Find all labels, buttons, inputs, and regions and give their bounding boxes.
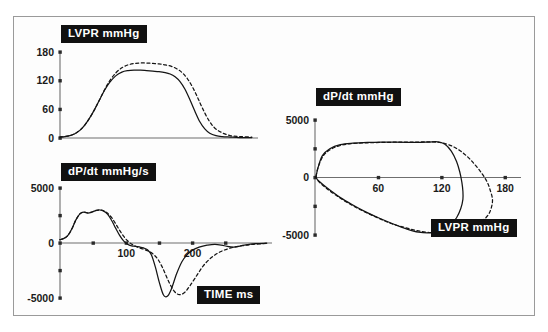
axis-label-dpdt-mmhg-right: dP/dt mmHg: [316, 88, 401, 106]
x-tick-mark: [92, 241, 95, 244]
y-tick-mark: [313, 118, 316, 121]
axis-label-dpdt-mmhg-per-s: dP/dt mmHg/s: [61, 163, 156, 181]
x-tick-mark: [191, 241, 194, 244]
y-tick-mark: [58, 50, 61, 53]
x-tick-mark: [440, 176, 443, 179]
x-tick-mark: [224, 241, 227, 244]
x-tick-label: 200: [184, 247, 202, 259]
x-tick-label: 180: [496, 182, 514, 194]
curve-solid: [60, 210, 267, 297]
x-tick-label: 120: [433, 182, 451, 194]
figure-root: 060120180 LVPR mmHg -500005000100200 dP/…: [0, 0, 548, 332]
y-tick-label: 180: [36, 46, 54, 58]
curve-solid: [60, 70, 252, 137]
y-tick-mark: [313, 233, 316, 236]
y-tick-label: -5000: [27, 292, 54, 304]
y-tick-mark: [58, 186, 61, 189]
x-tick-label: 60: [373, 182, 385, 194]
y-tick-label: 0: [303, 171, 309, 183]
y-tick-mark: [313, 147, 316, 150]
y-tick-mark: [313, 205, 316, 208]
y-tick-label: 0: [48, 237, 54, 249]
y-tick-mark: [58, 269, 61, 272]
axis-label-time-ms: TIME ms: [197, 286, 260, 304]
y-tick-label: -5000: [282, 229, 309, 241]
curve-dashed: [60, 210, 267, 295]
y-tick-label: 5000: [31, 182, 55, 194]
y-tick-label: 0: [48, 132, 54, 144]
x-tick-label: 100: [117, 247, 135, 259]
curve-dashed: [60, 63, 252, 137]
y-tick-mark: [58, 296, 61, 299]
x-tick-mark: [158, 241, 161, 244]
axis-label-lvpr-mmhg-right: LVPR mmHg: [431, 219, 517, 237]
y-tick-label: 5000: [286, 114, 310, 126]
x-tick-mark: [377, 176, 380, 179]
axis-label-lvpr-mmhg-top: LVPR mmHg: [61, 25, 147, 43]
y-tick-label: 120: [36, 74, 54, 86]
y-tick-mark: [58, 79, 61, 82]
y-tick-mark: [58, 241, 61, 244]
y-tick-mark: [58, 214, 61, 217]
x-tick-mark: [504, 176, 507, 179]
y-tick-mark: [58, 108, 61, 111]
y-tick-label: 60: [42, 103, 54, 115]
